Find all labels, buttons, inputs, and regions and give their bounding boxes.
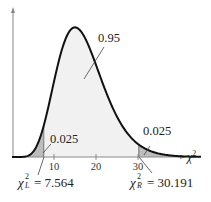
- right-tail-area-label: 0.025: [143, 125, 171, 138]
- middle-area-label: 0.95: [98, 32, 120, 45]
- tick-label-20: 20: [91, 162, 102, 173]
- left-critical-value: χ2L = 7.564: [18, 176, 74, 189]
- tick-label-10: 10: [49, 162, 60, 173]
- left-tail-area-label: 0.025: [50, 133, 78, 146]
- tick-label-30: 30: [133, 162, 144, 173]
- y-axis-arrow-icon: [11, 7, 15, 13]
- x-axis-label: χ2: [187, 150, 196, 163]
- left-value-leader-line: [38, 157, 44, 175]
- right-critical-value: χ2R = 30.191: [130, 176, 193, 189]
